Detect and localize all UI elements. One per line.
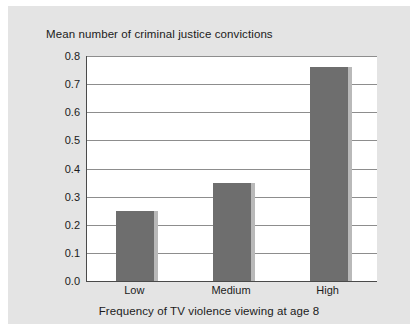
bar [213,183,251,281]
y-axis-tick-label: 0.4 [65,163,80,175]
y-axis-tick-label: 0.5 [65,134,80,146]
y-axis-tick-label: 0.3 [65,191,80,203]
y-axis-tick-label: 0.1 [65,247,80,259]
y-axis-tick-labels: 0.00.10.20.30.40.50.60.70.8 [42,56,80,281]
y-axis-tick-label: 0.6 [65,106,80,118]
chart-title: Mean number of criminal justice convicti… [46,28,273,40]
y-axis-tick-label: 0.8 [65,50,80,62]
x-axis-tick-label: Medium [211,284,250,296]
x-axis-tick-label: High [316,284,339,296]
y-axis-tick-label: 0.0 [65,275,80,287]
plot-area [86,56,377,282]
bar [310,67,348,281]
y-axis-tick-label: 0.7 [65,78,80,90]
x-axis-label: Frequency of TV violence viewing at age … [8,305,410,317]
chart-figure: Mean number of criminal justice convicti… [8,6,410,324]
y-axis-tick-label: 0.2 [65,219,80,231]
bar [116,211,154,281]
x-axis-tick-label: Low [124,284,144,296]
bar-series [87,56,377,281]
x-axis-tick-labels: LowMediumHigh [86,284,376,302]
